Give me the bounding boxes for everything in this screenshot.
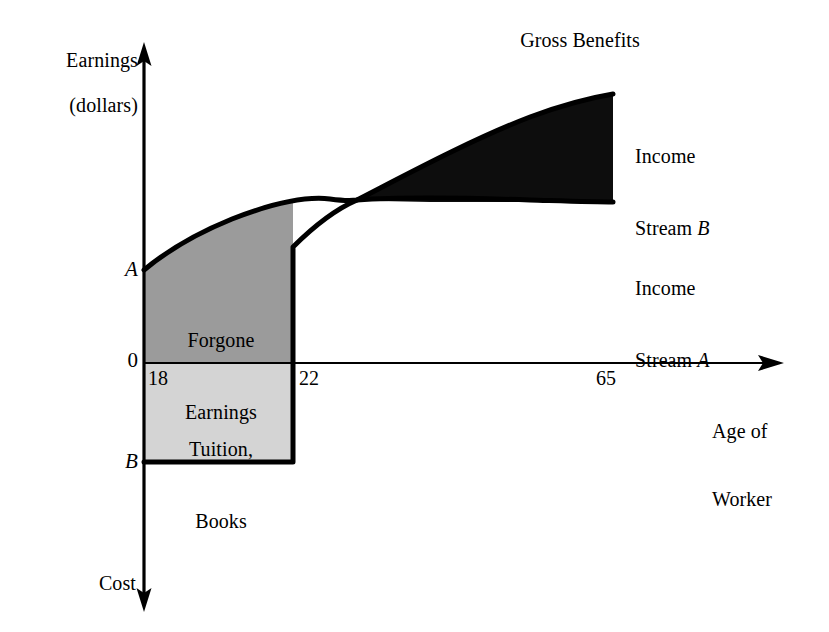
annotation-stream-a-line1: Income xyxy=(635,276,775,300)
x-axis-title-line1: Age of xyxy=(712,420,824,443)
point-label-a: A xyxy=(112,258,138,282)
y-axis-title-line1: Earnings xyxy=(66,49,138,71)
origin-label: 0 xyxy=(112,349,138,373)
annotation-stream-a-symbol: A xyxy=(697,349,709,371)
region-label-tuition-books: Tuition, Books xyxy=(158,389,284,581)
annotation-stream-b-line1: Income xyxy=(635,144,775,168)
diagram-title: Gross Benefits xyxy=(480,29,680,52)
region-gross-benefits xyxy=(357,94,613,202)
x-axis-title-line2: Worker xyxy=(712,488,824,511)
region-label-tuition-line2: Books xyxy=(158,509,284,533)
region-label-forgone-line1: Forgone xyxy=(158,328,284,352)
annotation-stream-a-line2: Stream A xyxy=(635,348,775,372)
y-axis-down-title-line1: Cost xyxy=(22,572,136,595)
x-tick-label-22: 22 xyxy=(299,367,319,390)
annotation-income-stream-a: Income Stream A xyxy=(635,228,775,420)
y-axis-down-title: Cost Outlays (dollars) xyxy=(22,526,136,632)
annotation-stream-a-word: Stream xyxy=(635,349,697,371)
y-axis-title-line2: (dollars) xyxy=(28,94,138,117)
y-axis-title: Earnings (dollars) xyxy=(28,26,138,163)
x-tick-label-65: 65 xyxy=(596,367,616,390)
education-investment-diagram: Earnings (dollars) Cost Outlays (dollars… xyxy=(0,0,829,632)
point-label-b: B xyxy=(112,450,138,474)
region-label-tuition-line1: Tuition, xyxy=(158,437,284,461)
